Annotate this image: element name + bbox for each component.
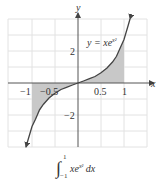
x-tick-1: 1 — [122, 86, 127, 97]
y-axis-label: y — [75, 2, 81, 13]
curve-equation-label: y = xex² — [86, 37, 117, 48]
integrand: xex² dx — [69, 163, 96, 174]
y-tick-minus-2: −2 — [64, 110, 75, 121]
x-axis-label: x — [150, 78, 156, 89]
integral-caption: ∫ 1 −1 xex² dx — [55, 153, 96, 180]
curve-equation-exponent: x² — [111, 37, 117, 43]
integral-upper-limit: 1 — [63, 153, 67, 161]
x-tick-0-5: 0.5 — [94, 86, 107, 97]
y-tick-2: 2 — [70, 46, 75, 57]
figure-integral-plot: y x −1 −0.5 0.5 1 2 −2 y = xex² ∫ 1 −1 x… — [0, 0, 162, 187]
x-tick-minus-1: −1 — [20, 86, 31, 97]
x-tick-minus-0-5: −0.5 — [40, 86, 58, 97]
integral-lower-limit: −1 — [60, 172, 68, 180]
